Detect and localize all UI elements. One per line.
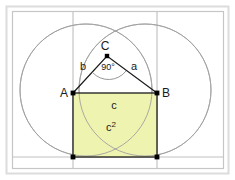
point-marker-square-bottom-right <box>155 155 160 160</box>
label-side-c: c <box>111 99 117 111</box>
label-point-b: B <box>162 86 170 100</box>
label-point-a: A <box>60 86 68 100</box>
label-point-c: C <box>101 39 110 53</box>
geometry-diagram: C A B 90° b a c c2 <box>0 0 235 180</box>
label-area-c-squared-exponent: 2 <box>112 120 117 129</box>
point-marker-square-bottom-left <box>71 155 76 160</box>
label-side-b: b <box>80 60 86 72</box>
point-marker-b <box>155 91 160 96</box>
label-side-a: a <box>131 60 138 72</box>
point-marker-c <box>105 54 109 58</box>
point-marker-a <box>71 91 76 96</box>
label-right-angle: 90° <box>101 62 115 72</box>
diagram-canvas: C A B 90° b a c c2 <box>0 0 235 180</box>
